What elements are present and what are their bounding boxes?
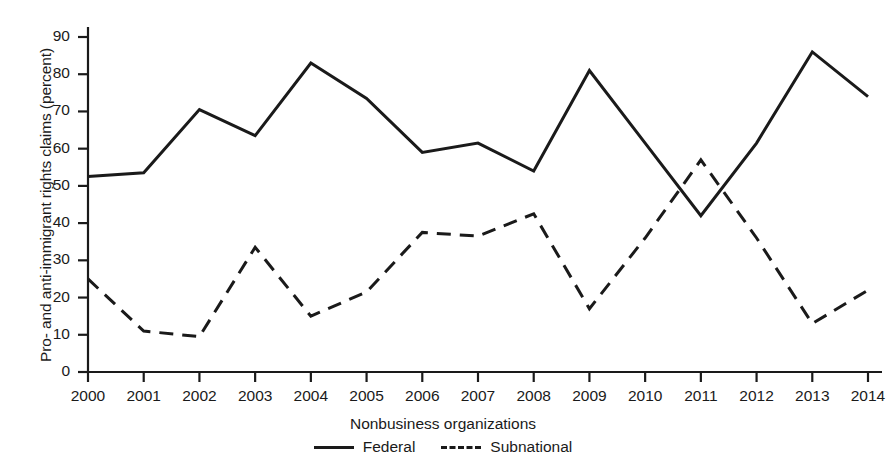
x-tick-label: 2000 xyxy=(56,387,120,405)
x-axis-label: Nonbusiness organizations xyxy=(0,415,886,433)
y-tick-label: 80 xyxy=(30,64,70,82)
legend-swatch-solid-line-icon xyxy=(314,446,354,449)
x-tick-label: 2014 xyxy=(836,387,886,405)
legend-label: Subnational xyxy=(490,438,572,456)
y-tick-label: 10 xyxy=(30,325,70,343)
legend-swatch-dashed-line-icon xyxy=(441,446,481,449)
series-line-subnational xyxy=(88,160,868,337)
chart-legend: FederalSubnational xyxy=(0,438,886,456)
x-tick-label: 2011 xyxy=(669,387,733,405)
line-chart: Pro- and anti-immigrant rights claims (p… xyxy=(0,0,886,469)
legend-entry-subnational: Subnational xyxy=(441,438,572,456)
y-tick-label: 60 xyxy=(30,139,70,157)
x-tick-label: 2010 xyxy=(613,387,677,405)
y-tick-label: 50 xyxy=(30,176,70,194)
x-tick-label: 2004 xyxy=(279,387,343,405)
y-tick-label: 0 xyxy=(30,362,70,380)
y-tick-label: 30 xyxy=(30,250,70,268)
series-line-federal xyxy=(88,52,868,216)
x-tick-label: 2002 xyxy=(167,387,231,405)
y-tick-label: 70 xyxy=(30,101,70,119)
x-tick-label: 2013 xyxy=(780,387,844,405)
legend-label: Federal xyxy=(363,438,416,456)
x-tick-label: 2003 xyxy=(223,387,287,405)
x-tick-label: 2009 xyxy=(557,387,621,405)
legend-entry-federal: Federal xyxy=(314,438,416,456)
x-tick-label: 2007 xyxy=(446,387,510,405)
x-tick-label: 2008 xyxy=(502,387,566,405)
y-tick-label: 90 xyxy=(30,27,70,45)
x-tick-label: 2005 xyxy=(335,387,399,405)
y-tick-label: 20 xyxy=(30,288,70,306)
x-tick-label: 2001 xyxy=(112,387,176,405)
x-tick-label: 2012 xyxy=(725,387,789,405)
y-tick-label: 40 xyxy=(30,213,70,231)
x-tick-label: 2006 xyxy=(390,387,454,405)
